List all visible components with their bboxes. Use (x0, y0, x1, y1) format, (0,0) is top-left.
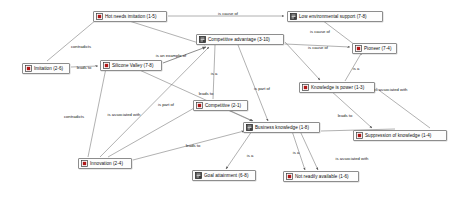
edge-label-innovation-to-business_knowledge: leads to (186, 143, 201, 148)
edge-label-knowledge_is_power-to-suppression: is associated with (375, 87, 408, 92)
edge-label-business_knowledge-to-goal_attainment: is a (247, 153, 254, 158)
edge-label-business_knowledge-to-suppression: is associated with (336, 156, 369, 161)
edge-label-knowledge_is_power-to-pioneer: is a (353, 66, 360, 71)
edge-label-hot_needs_imitation-to-competitive_adv: is an example of (156, 53, 187, 58)
edge-label-hot_needs_imitation-to-low_env_support: is cause of (218, 11, 238, 16)
diagram-edge-labels-layer: is cause ofcontradictsis an example ofis… (0, 0, 465, 198)
edge-label-competitive_adv-to-business_knowledge: is part of (254, 86, 270, 91)
edge-label-imitation-to-silicone_valley: leads to (77, 65, 92, 70)
edge-label-competitive-to-business_knowledge: leads to (199, 91, 214, 96)
edge-label-knowledge_is_power-to-suppression: leads to (338, 113, 353, 118)
edge-label-business_knowledge-to-not_readily_avail: is a (293, 150, 300, 155)
edge-label-hot_needs_imitation-to-imitation: contradicts (71, 44, 91, 49)
edge-label-competitive_adv-to-competitive: is a (211, 71, 218, 76)
edge-label-innovation-to-competitive_adv: is part of (158, 102, 174, 107)
edge-label-competitive_adv-to-knowledge_is_power: is cause of (308, 45, 328, 50)
edge-label-innovation-to-competitive: is associated with (108, 112, 141, 117)
edge-label-innovation-to-silicone_valley: contradicts (64, 114, 84, 119)
edge-label-low_env_support-to-pioneer: is cause of (310, 29, 330, 34)
